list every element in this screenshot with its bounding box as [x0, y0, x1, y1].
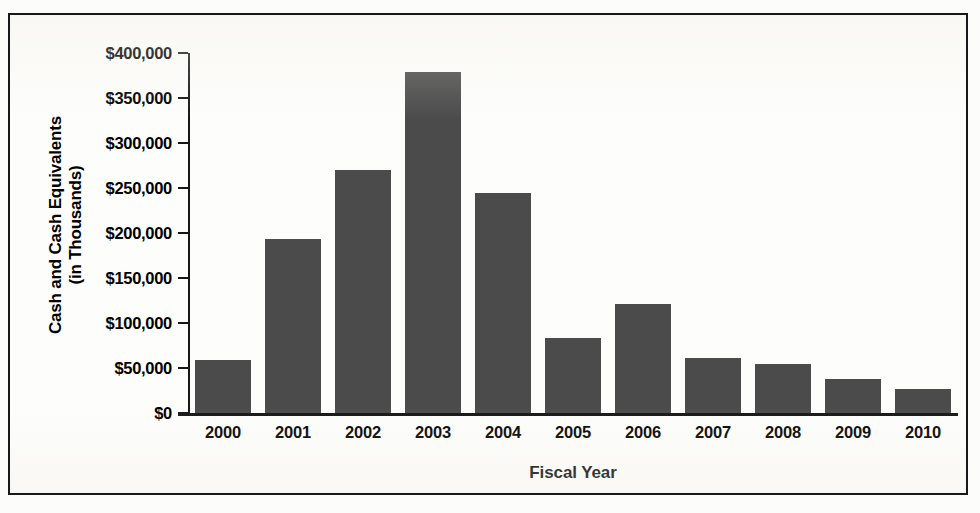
y-axis-tick-mark — [178, 52, 188, 54]
x-axis-title: Fiscal Year — [188, 463, 958, 483]
bar-series — [188, 53, 958, 413]
bar — [545, 338, 600, 413]
x-axis-tick-label: 2002 — [328, 423, 398, 442]
y-axis-tick-mark — [178, 97, 188, 99]
y-axis-tick-label: $100,000 — [106, 314, 172, 333]
chart-frame: Cash and Cash Equivalents (in Thousands)… — [8, 13, 968, 495]
x-axis-tick-label: 2007 — [678, 423, 748, 442]
x-axis-tick-label: 2005 — [538, 423, 608, 442]
x-axis-tick-label: 2009 — [818, 423, 888, 442]
x-axis-tick-label: 2008 — [748, 423, 818, 442]
x-axis-tick-label: 2000 — [188, 423, 258, 442]
y-axis-tick-mark — [178, 232, 188, 234]
x-axis-line — [178, 413, 958, 416]
plot-area — [188, 53, 958, 413]
y-axis-tick-label: $400,000 — [106, 44, 172, 63]
bar — [825, 379, 880, 413]
y-axis-tick-mark — [178, 277, 188, 279]
y-axis-title-line1: Cash and Cash Equivalents — [46, 116, 65, 334]
y-axis-tick-label: $200,000 — [106, 224, 172, 243]
y-axis-tick-mark — [178, 322, 188, 324]
bar — [895, 389, 950, 413]
bar — [195, 360, 250, 413]
y-axis-tick-label: $300,000 — [106, 134, 172, 153]
x-axis-tick-label: 2001 — [258, 423, 328, 442]
y-axis-tick-label: $350,000 — [106, 89, 172, 108]
y-axis-tick-mark — [178, 367, 188, 369]
y-axis-tick-mark — [178, 187, 188, 189]
x-axis-tick-label: 2006 — [608, 423, 678, 442]
y-axis-tick-labels: $0$50,000$100,000$150,000$200,000$250,00… — [70, 53, 178, 413]
y-axis-tick-label: $250,000 — [106, 179, 172, 198]
y-axis-tick-mark — [178, 412, 188, 414]
x-axis-tick-label: 2010 — [888, 423, 958, 442]
y-axis-tick-label: $150,000 — [106, 269, 172, 288]
x-axis-tick-label: 2003 — [398, 423, 468, 442]
x-axis-tick-label: 2004 — [468, 423, 538, 442]
x-axis-tick-labels: 2000200120022003200420052006200720082009… — [188, 423, 958, 451]
bar — [755, 364, 810, 414]
bar — [615, 304, 670, 413]
bar — [405, 72, 460, 413]
y-axis-tick-label: $50,000 — [114, 359, 172, 378]
bar — [685, 358, 740, 413]
bar — [475, 193, 530, 414]
chart-page: Cash and Cash Equivalents (in Thousands)… — [0, 0, 980, 513]
y-axis-tick-label: $0 — [154, 404, 172, 423]
bar — [265, 239, 320, 413]
bar — [335, 170, 390, 413]
y-axis-tick-mark — [178, 142, 188, 144]
